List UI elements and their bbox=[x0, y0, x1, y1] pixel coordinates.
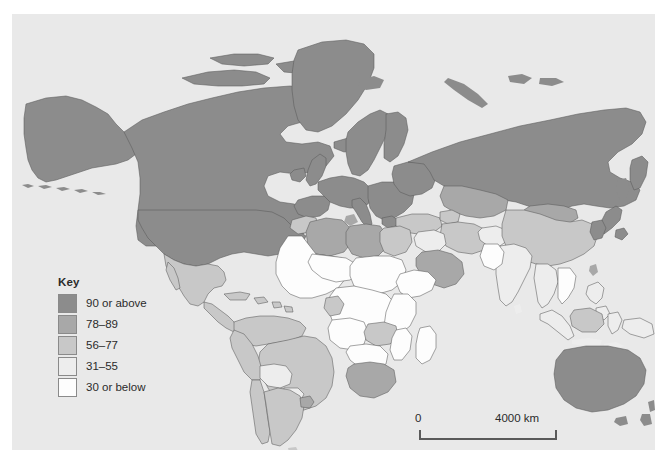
country-australia bbox=[554, 346, 646, 412]
legend-swatch-1 bbox=[58, 315, 77, 334]
country-japan bbox=[600, 206, 628, 240]
country-egypt bbox=[380, 226, 412, 256]
legend-label-2: 56–77 bbox=[86, 339, 118, 351]
scalebar-line bbox=[419, 438, 557, 440]
islands-caribbean bbox=[224, 292, 293, 312]
country-myanmar-thailand bbox=[534, 264, 558, 308]
region-kamchatka bbox=[630, 156, 648, 190]
region-iberia bbox=[294, 196, 330, 218]
legend-item-1: 78–89 bbox=[48, 314, 178, 334]
scalebar-start-label: 0 bbox=[415, 412, 421, 424]
island-new-guinea bbox=[622, 318, 654, 338]
scalebar-graphic bbox=[407, 428, 567, 440]
legend-swatch-2 bbox=[58, 336, 77, 355]
region-korea bbox=[590, 220, 606, 240]
legend-swatch-4 bbox=[58, 378, 77, 397]
map-panel: Key 90 or above 78–89 56–77 31–55 30 or … bbox=[12, 14, 655, 450]
region-central-america bbox=[204, 302, 238, 332]
country-bolivia bbox=[260, 364, 292, 388]
legend-swatch-0 bbox=[58, 294, 77, 313]
island-taiwan bbox=[589, 264, 598, 276]
scalebar-labels: 0 4000 km bbox=[407, 412, 567, 427]
map-legend: Key 90 or above 78–89 56–77 31–55 30 or … bbox=[48, 276, 178, 398]
country-alaska bbox=[24, 96, 138, 182]
country-iraq-syria bbox=[414, 230, 446, 252]
map-scalebar: 0 4000 km bbox=[407, 412, 567, 440]
islands-novaya-zemlya bbox=[444, 78, 488, 108]
island-java bbox=[572, 338, 602, 346]
legend-item-2: 56–77 bbox=[48, 335, 178, 355]
legend-label-4: 30 or below bbox=[86, 381, 145, 393]
island-sulawesi bbox=[608, 312, 622, 334]
legend-title: Key bbox=[58, 276, 178, 288]
country-argentina bbox=[264, 388, 304, 446]
country-south-africa bbox=[346, 362, 396, 398]
island-sumatra bbox=[540, 310, 574, 340]
islands-severnaya-zemlya bbox=[508, 74, 564, 86]
island-tasmania bbox=[614, 416, 628, 426]
region-greece bbox=[382, 216, 398, 228]
legend-item-4: 30 or below bbox=[48, 377, 178, 397]
island-sri-lanka bbox=[514, 304, 522, 314]
country-new-zealand bbox=[640, 400, 655, 426]
legend-label-3: 31–55 bbox=[86, 360, 118, 372]
legend-item-3: 31–55 bbox=[48, 356, 178, 376]
legend-item-0: 90 or above bbox=[48, 293, 178, 313]
island-aleutians bbox=[22, 184, 106, 195]
legend-label-0: 90 or above bbox=[86, 297, 147, 309]
scalebar-end-label: 4000 km bbox=[495, 412, 539, 424]
world-choropleth-figure: Key 90 or above 78–89 56–77 31–55 30 or … bbox=[0, 0, 667, 463]
country-vietnam-laos bbox=[558, 268, 576, 304]
country-finland bbox=[384, 112, 408, 162]
region-scandinavia bbox=[346, 110, 390, 176]
legend-swatch-3 bbox=[58, 357, 77, 376]
island-madagascar bbox=[416, 326, 436, 364]
legend-label-1: 78–89 bbox=[86, 318, 118, 330]
scalebar-tick-right bbox=[555, 430, 557, 440]
islands-falkland bbox=[288, 447, 298, 450]
